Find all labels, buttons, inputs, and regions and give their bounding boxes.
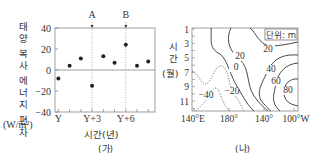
y-tick-label: 3 (184, 39, 189, 49)
x-tick-label: Y+6 (117, 113, 135, 124)
panel-ga: 태양복사에너지편차 (W/m²) 40200−20−40YY+3Y+6AB 시간… (0, 0, 160, 161)
data-point (124, 43, 128, 47)
contour-label: 40 (266, 64, 276, 74)
x-tick-label: 140° (255, 114, 273, 124)
x-tick-label: 180° (220, 114, 238, 124)
y-tick-label: 40 (41, 23, 51, 34)
contour-label: 80 (283, 85, 293, 95)
x-tick-label: 140°E (181, 114, 205, 124)
y-tick-label: −20 (35, 86, 51, 97)
contour-label: −40 (199, 90, 214, 100)
panel-label-na: (나) (235, 142, 250, 155)
contour-label: 20 (235, 51, 245, 61)
contour-label: 60 (271, 76, 281, 86)
data-point (90, 84, 94, 88)
scatter-plot-ga: 40200−20−40YY+3Y+6AB (0, 0, 160, 161)
contour-label: 20 (263, 44, 273, 54)
contour-label: −20 (225, 86, 240, 96)
x-tick-label: Y+3 (83, 113, 101, 124)
y-tick-label: 0 (46, 65, 51, 76)
data-point (56, 76, 60, 80)
panel-na: 시간(월) 1357911140°E180°140°100°W202004060… (160, 0, 316, 161)
y-tick-label: 1 (184, 25, 189, 35)
data-point (135, 64, 139, 68)
data-point (68, 64, 72, 68)
y-tick-label: 5 (184, 53, 189, 63)
x-axis-label-ga: 시간(년) (84, 127, 118, 141)
contour-label: 0 (234, 62, 239, 72)
x-tick-label: 100°W (282, 114, 309, 124)
unit-box: 단위: m (266, 30, 296, 40)
y-tick-label: −40 (35, 107, 51, 118)
data-point (79, 56, 83, 60)
contour-map-na: 1357911140°E180°140°100°W20200406080−20−… (160, 0, 316, 161)
y-tick-label: 20 (41, 44, 51, 55)
marker-label-B: B (122, 9, 129, 20)
y-tick-label: 11 (180, 97, 189, 107)
data-point (101, 54, 105, 58)
marker-label-A: A (88, 9, 96, 20)
y-tick-label: 9 (184, 82, 189, 92)
y-tick-label: 7 (184, 68, 189, 78)
data-point (146, 60, 150, 64)
panel-label-ga: (가) (98, 142, 113, 155)
x-tick-label: Y (55, 113, 62, 124)
data-point (113, 61, 117, 65)
